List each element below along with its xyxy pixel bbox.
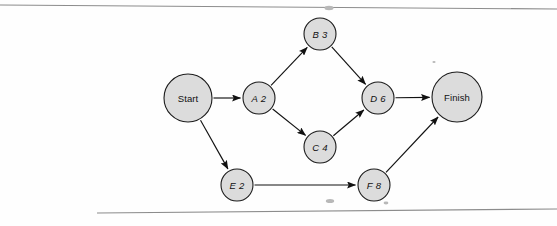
scan-speck <box>325 6 334 10</box>
edge-a-c <box>273 109 306 135</box>
node-label-c: C 4 <box>312 142 328 153</box>
node-label-finish: Finish <box>444 92 470 103</box>
top-rule <box>0 5 557 9</box>
edge-b-d <box>332 47 366 84</box>
scan-speck <box>326 199 334 203</box>
node-start[interactable]: Start <box>164 74 212 122</box>
node-a[interactable]: A 2 <box>243 82 275 114</box>
node-label-b: B 3 <box>312 29 328 40</box>
edge-a-b <box>271 47 307 85</box>
edge-c-d <box>333 110 364 136</box>
edge-f-finish <box>386 117 438 172</box>
node-label-d: D 6 <box>370 93 386 104</box>
node-d[interactable]: D 6 <box>362 82 394 114</box>
node-label-e: E 2 <box>229 180 245 191</box>
nodes-group: StartA 2B 3C 4D 6E 2F 8Finish <box>164 18 482 201</box>
node-c[interactable]: C 4 <box>304 131 336 163</box>
node-finish[interactable]: Finish <box>432 72 482 122</box>
node-e[interactable]: E 2 <box>221 169 253 201</box>
node-label-start: Start <box>178 93 199 104</box>
scan-speck <box>384 202 389 205</box>
edges-group <box>201 47 439 185</box>
node-label-a: A 2 <box>251 93 267 104</box>
edge-start-e <box>201 120 228 169</box>
node-f[interactable]: F 8 <box>358 169 390 201</box>
scan-speck <box>432 61 435 63</box>
figure-root: StartA 2B 3C 4D 6E 2F 8Finish <box>0 0 557 226</box>
project-network-diagram: StartA 2B 3C 4D 6E 2F 8Finish <box>0 0 557 226</box>
node-b[interactable]: B 3 <box>304 18 336 50</box>
bottom-rule <box>97 209 557 213</box>
node-label-f: F 8 <box>367 180 382 191</box>
